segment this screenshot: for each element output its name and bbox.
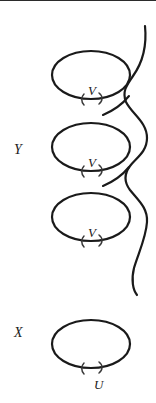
loop-label-upper-1: V [88, 84, 96, 97]
space-label-upper: Y [14, 143, 22, 157]
loop-label-upper-3: V [88, 226, 96, 239]
loop-label-upper-2: V [88, 156, 96, 169]
lower-loop [52, 320, 130, 368]
loop-label-lower: U [94, 378, 103, 391]
loop-group [52, 51, 130, 368]
space-label-lower: X [14, 326, 23, 340]
diagram-graphics [0, 0, 156, 403]
helix-back-segments [103, 96, 129, 186]
figure-canvas: Y X V V V U [0, 0, 156, 403]
